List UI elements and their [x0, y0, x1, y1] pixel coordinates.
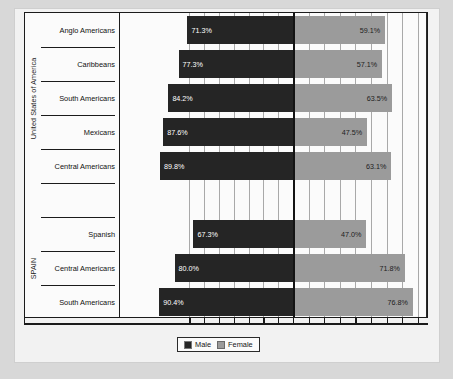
x-axis-line — [24, 323, 428, 325]
group-caption-united-states: United States of America — [27, 13, 41, 183]
bar-value-male: 84.2% — [172, 93, 192, 102]
bar-female: 76.8% — [293, 288, 413, 315]
legend-swatch-female-icon — [217, 341, 225, 349]
legend-item-male: Male — [184, 340, 211, 349]
female-scale-end-line — [426, 13, 427, 317]
bar-value-female: 47.5% — [342, 127, 362, 136]
chart-page: United States of America SPAIN Anglo Ame… — [0, 0, 453, 379]
group-caption-spain-text: SPAIN — [30, 257, 39, 279]
x-axis-tick-9 — [309, 318, 310, 324]
category-label-anglo-americans-0: Anglo Americans — [41, 13, 115, 47]
legend-swatch-male-icon — [184, 341, 192, 349]
x-axis-tick-4 — [234, 318, 235, 324]
bar-female: 47.0% — [293, 220, 366, 247]
legend-label-male: Male — [195, 340, 211, 349]
bar-value-female: 57.1% — [357, 59, 377, 68]
bar-value-male: 67.3% — [197, 229, 217, 238]
x-axis-tick-8 — [293, 318, 294, 324]
category-label-central-americans-6: Central Americans — [41, 251, 115, 285]
butterfly-bar-chart: United States of America SPAIN Anglo Ame… — [24, 12, 428, 328]
bar-value-female: 47.0% — [341, 229, 361, 238]
bar-female: 71.8% — [293, 254, 405, 281]
bar-row: 87.6%47.5% — [120, 118, 427, 145]
category-label-column: United States of America SPAIN Anglo Ame… — [24, 12, 120, 318]
bar-male: 84.2% — [168, 84, 293, 111]
category-label-south-americans-2: South Americans — [41, 81, 115, 115]
center-divider-line — [293, 13, 295, 317]
chart-legend: Male Female — [177, 337, 260, 352]
bar-male: 87.6% — [163, 118, 293, 145]
bar-row: 89.8%63.1% — [120, 152, 427, 179]
x-axis-tick-5 — [249, 318, 250, 324]
bar-row: 67.3%47.0% — [120, 220, 427, 247]
bar-male: 77.3% — [179, 50, 293, 77]
bar-value-male: 77.3% — [183, 59, 203, 68]
category-label-caribbeans-1: Caribbeans — [41, 47, 115, 81]
bar-value-male: 90.4% — [163, 297, 183, 306]
x-axis-tick-10 — [324, 318, 325, 324]
chart-panel: United States of America SPAIN Anglo Ame… — [14, 8, 440, 363]
x-axis-tick-7 — [278, 318, 279, 324]
category-label-mexicans-3: Mexicans — [41, 115, 115, 149]
category-label-central-americans-4: Central Americans — [41, 149, 115, 183]
bar-row: 80.0%71.8% — [120, 254, 427, 281]
bar-row: 90.4%76.8% — [120, 288, 427, 315]
bar-value-female: 76.8% — [387, 297, 407, 306]
bar-female: 63.1% — [293, 152, 391, 179]
x-axis-tick-13 — [371, 318, 372, 324]
group-caption-united-states-text: United States of America — [30, 57, 39, 139]
bar-value-male: 87.6% — [167, 127, 187, 136]
legend-label-female: Female — [228, 340, 253, 349]
bar-male: 90.4% — [159, 288, 293, 315]
x-axis-tick-14 — [387, 318, 388, 324]
x-axis-tick-1 — [189, 318, 190, 324]
bar-value-male: 80.0% — [179, 263, 199, 272]
x-axis-tick-11 — [340, 318, 341, 324]
x-axis-tick-2 — [204, 318, 205, 324]
bar-value-male: 89.8% — [164, 161, 184, 170]
x-axis — [24, 318, 428, 328]
x-axis-tick-6 — [263, 318, 264, 324]
bar-value-female: 63.5% — [367, 93, 387, 102]
bar-row: 71.3%59.1% — [120, 16, 427, 43]
bar-value-female: 63.1% — [366, 161, 386, 170]
x-axis-tick-0 — [24, 318, 25, 324]
bar-row: 84.2%63.5% — [120, 84, 427, 111]
category-label-separator — [41, 183, 115, 217]
bar-value-female: 71.8% — [380, 263, 400, 272]
bar-value-male: 71.3% — [191, 25, 211, 34]
bar-female: 47.5% — [293, 118, 367, 145]
bar-male: 89.8% — [160, 152, 293, 179]
bar-male: 80.0% — [175, 254, 293, 281]
bar-female: 57.1% — [293, 50, 382, 77]
bar-male: 71.3% — [187, 16, 293, 43]
x-axis-tick-15 — [402, 318, 403, 324]
bar-value-female: 59.1% — [360, 25, 380, 34]
x-axis-tick-12 — [355, 318, 356, 324]
x-axis-tick-16 — [418, 318, 419, 324]
plot-area: 71.3%59.1%77.3%57.1%84.2%63.5%87.6%47.5%… — [120, 12, 428, 318]
bar-female: 63.5% — [293, 84, 392, 111]
bar-male: 67.3% — [193, 220, 293, 247]
category-label-south-americans-7: South Americans — [41, 285, 115, 319]
category-label-spanish-5: Spanish — [41, 217, 115, 251]
legend-item-female: Female — [217, 340, 253, 349]
bar-row: 77.3%57.1% — [120, 50, 427, 77]
x-axis-tick-3 — [219, 318, 220, 324]
group-caption-spain: SPAIN — [27, 217, 41, 319]
bar-female: 59.1% — [293, 16, 385, 43]
